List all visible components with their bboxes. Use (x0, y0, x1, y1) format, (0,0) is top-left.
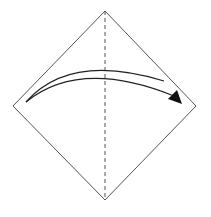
origami-diagram (0, 0, 211, 217)
diagram-canvas (0, 0, 211, 217)
